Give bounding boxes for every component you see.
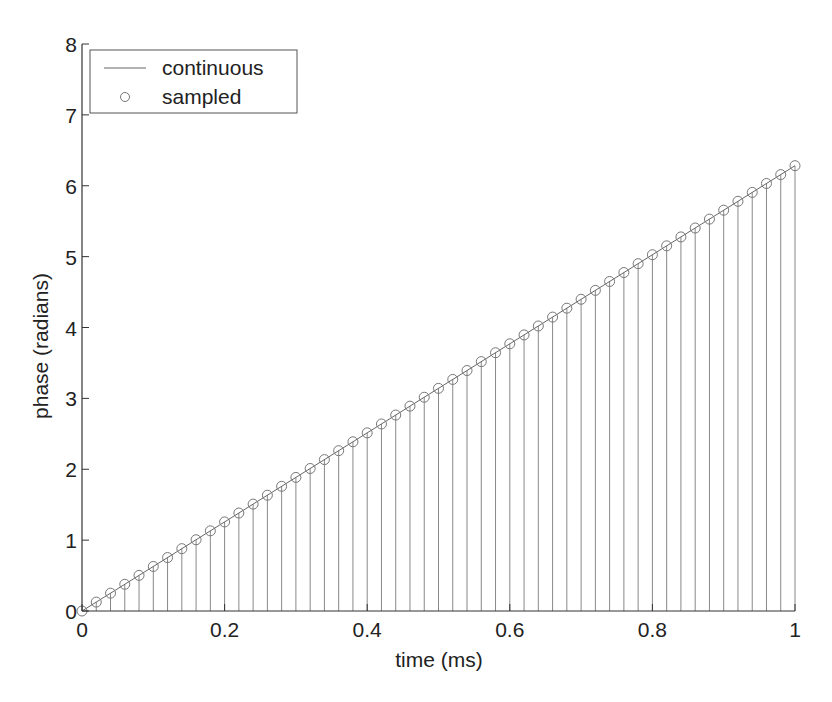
legend: continuous sampled	[90, 50, 297, 113]
x-axis-label: time (ms)	[395, 648, 483, 671]
y-tick-label: 1	[65, 529, 77, 552]
x-tick-label: 0.4	[353, 618, 383, 641]
y-ticks: 012345678	[65, 33, 89, 623]
y-tick-label: 4	[65, 317, 77, 340]
y-tick-label: 0	[65, 600, 77, 623]
y-tick-label: 8	[65, 33, 77, 56]
legend-label-continuous: continuous	[162, 56, 264, 79]
chart: 00.20.40.60.81 012345678 time (ms) phase…	[0, 0, 832, 702]
x-tick-label: 0.6	[495, 618, 524, 641]
y-tick-label: 6	[65, 175, 77, 198]
y-tick-label: 3	[65, 387, 77, 410]
y-tick-label: 2	[65, 458, 77, 481]
x-tick-label: 1	[789, 618, 801, 641]
y-axis-label: phase (radians)	[29, 273, 52, 419]
x-tick-label: 0	[76, 618, 88, 641]
y-tick-label: 5	[65, 246, 77, 269]
y-tick-label: 7	[65, 104, 77, 127]
x-tick-label: 0.8	[638, 618, 667, 641]
x-tick-label: 0.2	[210, 618, 239, 641]
legend-label-sampled: sampled	[162, 85, 241, 108]
